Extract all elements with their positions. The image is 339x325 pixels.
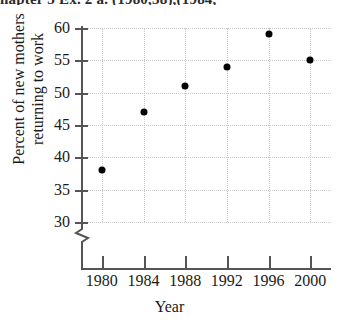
gridline-horizontal [81,157,331,159]
x-axis-tick-label: 1984 [121,272,167,289]
x-axis-tick [269,256,271,269]
y-axis-lower-segment [81,248,83,270]
gridline-vertical [144,28,146,222]
gridline-vertical [227,28,229,222]
data-point [140,109,147,116]
y-axis-tick-label: 45 [38,117,70,133]
y-axis-tick [75,60,88,62]
y-axis-tick-label: 30 [38,214,70,230]
gridline-horizontal [81,60,331,62]
x-axis-tick [144,256,146,269]
x-axis-tick-label: 1988 [162,272,208,289]
y-axis-title-line1: Percent of new mothers [9,0,28,194]
gridline-vertical [185,28,187,222]
scatter-plot-figure: hapter 3 Ex. 2 a. (1980,38),(1984, Perce… [0,0,339,325]
y-axis-tick-label: 40 [38,149,70,165]
x-axis-tick [102,256,104,269]
data-point [223,63,230,70]
y-axis-tick [75,93,88,95]
gridline-horizontal [81,222,331,224]
x-axis-tick-label: 1996 [246,272,292,289]
page-text-bleed: hapter 3 Ex. 2 a. (1980,38),(1984, [0,0,339,5]
data-point [307,57,314,64]
data-point [265,31,272,38]
x-axis-tick [310,256,312,269]
plot-area [81,28,331,222]
gridline-horizontal [81,93,331,95]
data-point [98,167,105,174]
x-axis-title: Year [0,298,339,316]
x-axis-tick [185,256,187,269]
x-axis-tick [227,256,229,269]
x-axis-line [81,268,331,270]
gridline-vertical [102,28,104,222]
y-axis-tick-label: 60 [38,20,70,36]
x-axis-tick-label: 1992 [204,272,250,289]
y-axis-tick-label: 50 [38,85,70,101]
y-axis-tick [75,125,88,127]
y-axis-tick [75,190,88,192]
gridline-vertical [269,28,271,222]
y-axis-tick [75,157,88,159]
y-axis-tick-label: 35 [38,182,70,198]
gridline-horizontal [81,125,331,127]
y-axis-tick [75,222,88,224]
data-point [182,83,189,90]
axis-break-icon [73,222,93,250]
x-axis-tick-label: 1980 [79,272,125,289]
gridline-horizontal [81,28,331,30]
x-axis-tick-label: 2000 [287,272,333,289]
y-axis-tick-label: 55 [38,52,70,68]
y-axis-tick [75,28,88,30]
gridline-horizontal [81,190,331,192]
